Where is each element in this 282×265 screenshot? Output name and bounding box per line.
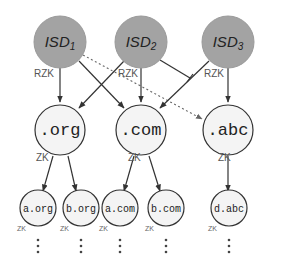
isd-node-2: ISD2 [115, 16, 167, 68]
tld-label-org: .org [40, 121, 81, 140]
zk-label-a-org: ZK [17, 225, 26, 232]
tld-node-abc: .abc [203, 105, 253, 155]
zk-label-org: ZK [36, 152, 49, 163]
tld-label-abc: .abc [208, 121, 249, 140]
zk-label-com: ZK [128, 152, 141, 163]
edge-isd3-com [160, 61, 209, 108]
leaf-label-d-abc: d.abc [214, 204, 244, 215]
edge-com-b-com [149, 156, 160, 191]
leaf-label-a-com: a.com [105, 204, 135, 215]
tld-label-com: .com [121, 121, 162, 140]
edge-isd2-blocked [160, 60, 190, 78]
leaf-node-b-org: b.org [63, 190, 99, 226]
leaf-node-a-com: a.com [102, 190, 138, 226]
rzk-label-3: RZK [204, 68, 224, 79]
rzk-label-2: RZK [118, 68, 138, 79]
leaf-label-b-com: b.com [151, 204, 181, 215]
isd-node-3: ISD3 [202, 16, 254, 68]
zk-label-a-com: ZK [99, 225, 108, 232]
zk-label-d-abc: ZK [208, 225, 217, 232]
leaf-label-b-org: b.org [66, 204, 96, 215]
leaf-node-b-com: b.com [148, 190, 184, 226]
edge-org-b-org [68, 156, 76, 191]
vertical-ellipsis-icon [119, 239, 122, 254]
rzk-label-1: RZK [34, 68, 54, 79]
zk-label-b-org: ZK [60, 225, 69, 232]
trust-hierarchy-diagram: ISD1 ISD2 ISD3 RZK RZK RZK .org .com .ab… [0, 0, 282, 265]
vertical-ellipsis-icon [37, 239, 40, 254]
zk-label-b-com: ZK [145, 225, 154, 232]
leaf-node-d-abc: d.abc [211, 190, 247, 226]
leaf-label-a-org: a.org [23, 204, 53, 215]
tld-node-org: .org [35, 105, 85, 155]
vertical-ellipsis-icon [228, 239, 231, 254]
vertical-ellipsis-icon [80, 239, 83, 254]
continuation-dots [37, 239, 231, 254]
tld-node-com: .com [116, 105, 166, 155]
isd-node-1: ISD1 [34, 16, 86, 68]
vertical-ellipsis-icon [165, 239, 168, 254]
leaf-node-a-org: a.org [20, 190, 56, 226]
zk-label-abc: ZK [218, 152, 231, 163]
